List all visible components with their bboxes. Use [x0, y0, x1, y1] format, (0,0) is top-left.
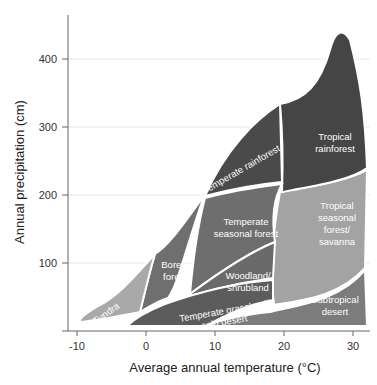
- x-tick-neg10: -10: [69, 340, 85, 352]
- label-tropical-seasonal-1: Tropical: [320, 200, 353, 211]
- label-subtropical-desert-1: Subtropical: [311, 294, 359, 305]
- x-tick-20: 20: [278, 340, 290, 352]
- biome-diagram: 400 300 200 100 -10 0 10 20 30 Average a…: [0, 0, 377, 385]
- label-tropical-seasonal-3: forest/: [324, 224, 351, 235]
- y-tick-100: 100: [39, 257, 57, 269]
- label-boreal-2: forest: [163, 271, 187, 282]
- label-temperate-seasonal-1: Temperate: [224, 216, 269, 227]
- x-tick-labels: -10 0 10 20 30: [69, 340, 359, 352]
- label-tropical-rainforest-2: rainforest: [315, 143, 355, 154]
- label-tropical-seasonal-2: seasonal: [318, 212, 356, 223]
- label-subtropical-desert-2: desert: [322, 306, 349, 317]
- x-axis-title: Average annual temperature (°C): [129, 360, 320, 375]
- y-tick-300: 300: [39, 121, 57, 133]
- label-woodland-1: Woodland/: [225, 270, 271, 281]
- x-tick-30: 30: [347, 340, 359, 352]
- y-tick-200: 200: [39, 189, 57, 201]
- y-axis-title: Annual precipitation (cm): [12, 100, 27, 244]
- label-tropical-seasonal-4: savanna: [319, 236, 356, 247]
- y-tick-labels: 400 300 200 100: [39, 53, 57, 269]
- label-temperate-seasonal-2: seasonal forest: [214, 228, 279, 239]
- x-tick-0: 0: [143, 340, 149, 352]
- x-tick-10: 10: [209, 340, 221, 352]
- y-tick-400: 400: [39, 53, 57, 65]
- region-tropical-rainforest: [280, 33, 367, 192]
- label-boreal-1: Boreal: [161, 259, 188, 270]
- label-woodland-2: shrubland: [227, 282, 269, 293]
- label-tropical-rainforest-1: Tropical: [318, 131, 351, 142]
